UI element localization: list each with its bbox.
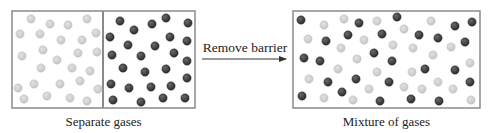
dark-particle: [466, 78, 474, 86]
light-particle: [429, 51, 437, 59]
light-particle: [83, 97, 91, 105]
light-particle: [373, 68, 381, 76]
light-particle: [337, 44, 345, 52]
dark-particle: [322, 37, 330, 45]
dark-particle: [407, 95, 415, 103]
light-particle: [365, 85, 373, 93]
light-particle: [408, 68, 416, 76]
light-particle: [64, 21, 72, 29]
remove-barrier-label: Remove barrier: [203, 40, 288, 55]
dark-particle: [370, 49, 378, 57]
light-particle: [43, 92, 51, 100]
light-particle: [94, 85, 102, 93]
separate-gases-panel: Separate gases: [12, 11, 195, 129]
dark-particle: [376, 97, 384, 105]
light-particle: [78, 36, 86, 44]
light-particle: [400, 83, 408, 91]
light-particle: [449, 85, 457, 93]
dark-particle: [355, 19, 363, 27]
light-particle: [305, 75, 313, 83]
light-particle: [57, 36, 65, 44]
dark-particle: [181, 94, 189, 102]
light-particle: [409, 44, 417, 52]
light-particle: [27, 15, 35, 23]
light-particle: [427, 17, 435, 25]
dark-particle: [388, 57, 396, 65]
light-particle: [18, 52, 26, 60]
dark-particle: [137, 52, 145, 60]
dark-particle: [137, 98, 145, 106]
dark-particle: [183, 57, 191, 65]
dark-particle: [338, 88, 346, 96]
dark-particle: [183, 74, 191, 82]
dark-particle: [130, 26, 138, 34]
dark-particle: [421, 65, 429, 73]
light-particle: [74, 49, 82, 57]
dark-particle: [352, 75, 360, 83]
light-particle: [434, 78, 442, 86]
light-particle: [349, 96, 357, 104]
dark-particle: [109, 96, 117, 104]
light-particle: [360, 36, 368, 44]
light-particle: [16, 30, 24, 38]
dark-particle: [125, 84, 133, 92]
dark-particle: [344, 31, 352, 39]
dark-particle: [119, 64, 127, 72]
dark-particle: [167, 82, 175, 90]
dark-particle: [166, 33, 174, 41]
light-particle: [92, 29, 100, 37]
dark-particle: [378, 30, 386, 38]
light-particle: [466, 59, 474, 67]
dark-particle: [393, 13, 401, 21]
dark-particle: [159, 94, 167, 102]
dark-particle: [151, 42, 159, 50]
dark-particle: [162, 14, 170, 22]
light-particle: [418, 85, 426, 93]
dark-particle: [108, 51, 116, 59]
light-particle: [304, 35, 312, 43]
dark-particle: [468, 18, 476, 26]
dark-particle: [297, 16, 305, 24]
dark-particle: [106, 33, 114, 41]
light-particle: [93, 48, 101, 56]
dark-particle: [124, 41, 132, 49]
light-particle: [53, 56, 61, 64]
light-particle: [389, 41, 397, 49]
light-particle: [39, 46, 47, 54]
light-particle: [37, 64, 45, 72]
light-particle: [14, 84, 22, 92]
light-particle: [340, 15, 348, 23]
dark-particle: [183, 37, 191, 45]
light-particle: [30, 80, 38, 88]
dark-particle: [141, 68, 149, 76]
dark-particle: [162, 65, 170, 73]
dark-particle: [451, 66, 459, 74]
dark-particle: [415, 31, 423, 39]
dark-particle: [435, 97, 443, 105]
dark-particle: [324, 78, 332, 86]
dark-particle: [184, 19, 192, 27]
dark-particle: [107, 80, 115, 88]
light-particle: [68, 64, 76, 72]
light-particle: [320, 94, 328, 102]
dark-particle: [316, 57, 324, 65]
light-particle: [400, 25, 408, 33]
light-particle: [320, 21, 328, 29]
dark-particle: [300, 54, 308, 62]
dark-particle: [385, 78, 393, 86]
light-particle: [353, 55, 361, 63]
light-particle: [447, 43, 455, 51]
light-particle: [66, 94, 74, 102]
light-particle: [373, 17, 381, 25]
light-particle: [36, 30, 44, 38]
light-particle: [20, 95, 28, 103]
light-particle: [76, 77, 84, 85]
mixture-of-gases-caption: Mixture of gases: [343, 114, 430, 129]
light-particle: [467, 96, 475, 104]
light-particle: [83, 15, 91, 23]
light-particle: [86, 67, 94, 75]
dark-particle: [434, 34, 442, 42]
dark-particle: [148, 20, 156, 28]
light-particle: [56, 80, 64, 88]
remove-barrier-arrow-group: Remove barrier: [202, 40, 288, 59]
